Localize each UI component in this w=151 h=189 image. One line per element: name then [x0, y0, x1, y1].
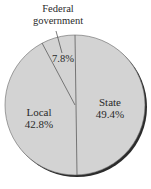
federal-pct: 7.8% — [52, 53, 74, 64]
state-pct: 49.4% — [96, 108, 124, 120]
local-label: Local — [26, 106, 51, 118]
federal-label-line2: government — [33, 15, 83, 26]
state-label: State — [99, 96, 121, 108]
local-pct: 42.8% — [25, 118, 53, 130]
pie-chart: Federal government 7.8% State 49.4% Loca… — [0, 0, 151, 189]
federal-label-line1: Federal — [42, 3, 74, 14]
